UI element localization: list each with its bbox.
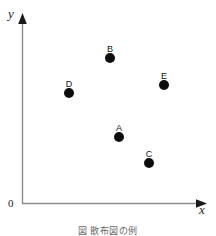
- y-axis-arrowhead-icon: [18, 13, 27, 24]
- data-point-b[interactable]: [105, 53, 115, 63]
- x-axis-label: x: [199, 203, 205, 216]
- data-point-c[interactable]: [144, 158, 154, 168]
- axes-svg: [0, 0, 216, 216]
- figure-caption: 図 散布図の例: [0, 226, 216, 236]
- plot-area: y x 0 A B C D E: [0, 0, 216, 216]
- data-point-d[interactable]: [64, 88, 74, 98]
- y-axis-label: y: [8, 7, 14, 20]
- scatter-plot-figure: y x 0 A B C D E 図 散布図の例: [0, 0, 216, 236]
- origin-label: 0: [8, 198, 14, 209]
- data-point-a[interactable]: [114, 132, 124, 142]
- data-point-e[interactable]: [159, 80, 169, 90]
